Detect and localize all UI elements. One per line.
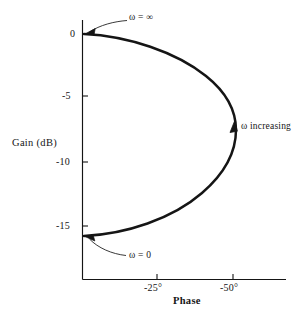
y-tick-label-minus-10: -10	[56, 157, 70, 167]
omega-zero-label: ω = 0	[129, 251, 151, 261]
gain-phase-chart-figure: 0 -5 -10 -15 Gain (dB) -25° -50° Phase ω…	[0, 0, 302, 315]
y-tick-label-0: 0	[70, 29, 75, 39]
x-tick-label-minus-25: -25°	[144, 283, 162, 293]
gain-phase-locus-curve	[84, 34, 236, 236]
omega-infinity-label: ω = ∞	[129, 13, 153, 23]
x-axis-title: Phase	[173, 296, 201, 307]
omega-infinity-arrowhead	[85, 29, 96, 35]
omega-increasing-label: ω increasing	[241, 122, 291, 132]
chart-plot-area	[0, 0, 302, 315]
omega-zero-leader-line	[90, 239, 127, 256]
y-tick-label-minus-15: -15	[56, 221, 70, 231]
y-tick-label-minus-5: -5	[62, 91, 71, 101]
x-tick-label-minus-50: -50°	[220, 283, 238, 293]
x-axis-ticks	[157, 274, 233, 280]
y-axis-title: Gain (dB)	[12, 138, 57, 149]
y-axis-ticks	[83, 34, 89, 226]
omega-zero-arrowhead	[84, 236, 95, 241]
